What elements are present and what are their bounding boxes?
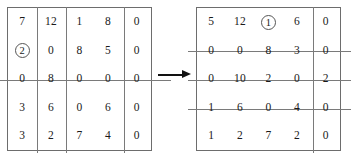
matrix-cell-circled: 2: [8, 36, 37, 64]
cell-value: 6: [294, 16, 300, 28]
cell-value: 0: [208, 73, 214, 85]
matrix-cell: 1: [197, 122, 226, 150]
matrix-cell: 4: [283, 93, 312, 121]
matrix-left: 7 12 1 8 0 2 0 8 5 0 0 8 0 0 0 3 6 0 6 0…: [7, 7, 152, 151]
matrix-cell: 0: [122, 36, 151, 64]
matrix-cell: 0: [122, 65, 151, 93]
arrow-head: [182, 70, 191, 78]
matrix-cell: 0: [311, 122, 340, 150]
cell-value: 2: [323, 73, 329, 85]
cell-value: 0: [323, 130, 329, 142]
cell-value: 8: [48, 73, 54, 85]
matrix-cell: 0: [65, 65, 94, 93]
matrix-cell: 0: [311, 93, 340, 121]
matrix-cell: 7: [8, 8, 37, 36]
matrix-cell: 0: [65, 93, 94, 121]
cell-value: 7: [77, 130, 83, 142]
cell-value: 3: [19, 102, 25, 114]
matrix-cell: 3: [283, 36, 312, 64]
matrix-cell: 0: [122, 93, 151, 121]
cell-value: 0: [48, 45, 54, 57]
matrix-cell: 10: [226, 65, 255, 93]
matrix-cell-circled: 1: [254, 8, 283, 36]
cell-value: 0: [323, 102, 329, 114]
cell-value: 2: [294, 130, 300, 142]
cell-value: 6: [48, 102, 54, 114]
matrix-cell: 8: [94, 8, 123, 36]
cell-value: 5: [208, 16, 214, 28]
cell-value: 8: [266, 45, 272, 57]
matrix-cell: 0: [37, 36, 66, 64]
cell-value: 0: [323, 16, 329, 28]
matrix-cell: 6: [94, 93, 123, 121]
matrix-right: 5 12 1 6 0 0 0 8 3 0 0 10 2 0 2 1 6 0 4 …: [196, 7, 341, 151]
matrix-cell: 8: [65, 36, 94, 64]
cell-value: 0: [294, 73, 300, 85]
cell-value: 2: [237, 130, 243, 142]
transform-arrow-icon: [158, 70, 191, 79]
matrix-cell: 5: [94, 36, 123, 64]
cell-value: 0: [134, 45, 140, 57]
matrix-cell: 0: [197, 36, 226, 64]
cell-value: 2: [48, 130, 54, 142]
cell-value: 7: [266, 130, 272, 142]
matrix-cell: 0: [226, 36, 255, 64]
cell-value: 0: [77, 73, 83, 85]
matrix-cell: 0: [197, 65, 226, 93]
cell-value: 8: [105, 16, 111, 28]
matrix-cell: 2: [254, 65, 283, 93]
matrix-cell: 7: [65, 122, 94, 150]
cell-value: 1: [208, 130, 214, 142]
matrix-cell: 2: [283, 122, 312, 150]
matrix-cell: 6: [283, 8, 312, 36]
cell-value: 0: [134, 130, 140, 142]
matrix-cell: 0: [311, 8, 340, 36]
cell-value: 1: [208, 102, 214, 114]
cell-value: 5: [105, 45, 111, 57]
matrix-cell: 0: [8, 65, 37, 93]
cell-value: 0: [134, 16, 140, 28]
cell-value: 0: [105, 73, 111, 85]
cell-value: 8: [77, 45, 83, 57]
matrix-cell: 3: [8, 122, 37, 150]
matrix-cell: 0: [94, 65, 123, 93]
cell-value: 0: [266, 102, 272, 114]
cell-value: 6: [105, 102, 111, 114]
cell-value: 12: [45, 16, 57, 28]
matrix-cell: 0: [122, 122, 151, 150]
matrix-cell: 1: [197, 93, 226, 121]
cell-value: 3: [294, 45, 300, 57]
cell-value: 0: [237, 45, 243, 57]
cell-value: 0: [134, 73, 140, 85]
cell-value: 2: [266, 73, 272, 85]
cell-value: 0: [77, 102, 83, 114]
cell-value: 1: [261, 15, 276, 30]
cell-value: 10: [234, 73, 246, 85]
cell-value: 4: [105, 130, 111, 142]
matrix-cell: 0: [122, 8, 151, 36]
matrix-cell: 5: [197, 8, 226, 36]
cell-value: 0: [323, 45, 329, 57]
cell-value: 7: [19, 16, 25, 28]
matrix-cell: 7: [254, 122, 283, 150]
matrix-cell: 8: [37, 65, 66, 93]
matrix-right-grid: 5 12 1 6 0 0 0 8 3 0 0 10 2 0 2 1 6 0 4 …: [197, 8, 340, 150]
matrix-cell: 0: [254, 93, 283, 121]
matrix-cell: 2: [311, 65, 340, 93]
cell-value: 2: [15, 43, 30, 58]
matrix-cell: 2: [226, 122, 255, 150]
cell-value: 4: [294, 102, 300, 114]
cell-value: 12: [234, 16, 246, 28]
matrix-cell: 3: [8, 93, 37, 121]
matrix-cell: 0: [283, 65, 312, 93]
cell-value: 0: [208, 45, 214, 57]
matrix-cell: 4: [94, 122, 123, 150]
matrix-cell: 2: [37, 122, 66, 150]
arrow-shaft: [158, 74, 184, 76]
matrix-cell: 12: [37, 8, 66, 36]
matrix-cell: 6: [226, 93, 255, 121]
matrix-cell: 8: [254, 36, 283, 64]
matrix-cell: 12: [226, 8, 255, 36]
cell-value: 0: [19, 73, 25, 85]
